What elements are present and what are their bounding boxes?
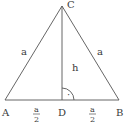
vertex-label-a: A [1, 107, 10, 118]
height-label: h [72, 62, 79, 73]
fraction-ad-numerator: a [34, 105, 39, 114]
fraction-db-numerator: a [90, 105, 95, 114]
side-ac [5, 6, 62, 100]
vertex-label-b: B [116, 107, 123, 118]
side-label-bc: a [97, 46, 103, 57]
isosceles-triangle-diagram: · C A D B a a h a 2 a 2 [0, 0, 131, 131]
vertex-label-d: D [58, 107, 66, 118]
side-bc [62, 6, 119, 100]
fraction-ad-denominator: 2 [34, 115, 39, 124]
fraction-db-denominator: 2 [90, 115, 95, 124]
side-label-ac: a [21, 46, 27, 57]
right-angle-dot: · [67, 89, 70, 100]
vertex-label-c: C [67, 0, 75, 10]
